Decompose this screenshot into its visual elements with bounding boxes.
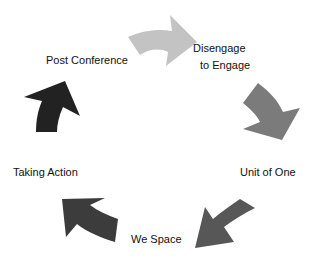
arrow-down-left-icon [195, 199, 255, 248]
stage-label-disengage-line2: to Engage [200, 59, 250, 72]
arrow-down-right-icon [243, 83, 300, 140]
arrow-right-icon [128, 15, 197, 66]
stage-label-post-conference: Post Conference [46, 54, 128, 67]
cycle-arrows [0, 0, 317, 263]
stage-label-taking-action: Taking Action [13, 166, 78, 179]
stage-label-disengage-line1: Disengage [193, 42, 246, 55]
stage-label-we-space: We Space [131, 233, 182, 246]
arrow-up-icon [24, 81, 80, 132]
stage-label-unit-of-one: Unit of One [240, 166, 296, 179]
arrow-up-left-icon [62, 198, 118, 242]
